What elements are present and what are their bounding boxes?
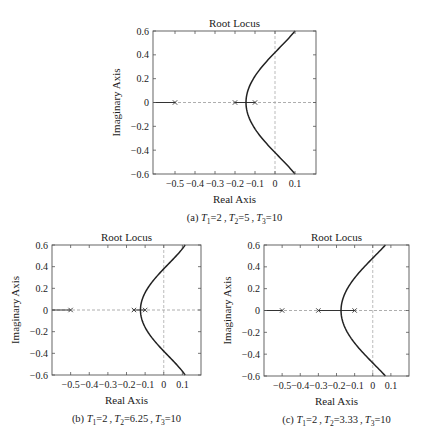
x-tick-label: 0.1 (176, 379, 189, 390)
x-tick-label: −0.2 (226, 178, 244, 189)
y-tick-label: 0.4 (248, 261, 261, 272)
x-tick-label: 0.1 (385, 380, 398, 391)
x-tick-label: −0.4 (291, 380, 309, 391)
x-tick-label: −0.1 (346, 380, 364, 391)
x-tick-label: −0.3 (309, 380, 327, 391)
x-axis-label: Real Axis (105, 394, 148, 406)
y-axis-label: Imaginary Axis (221, 276, 233, 344)
x-tick-label: 0 (370, 380, 375, 391)
x-axis-label: Real Axis (315, 395, 358, 407)
y-axis-label: Imaginary Axis (9, 276, 21, 344)
x-tick-label: 0 (273, 178, 278, 189)
locus-branch-lower (246, 103, 295, 175)
x-tick-label: −0.5 (62, 379, 80, 390)
y-tick-label: −0.4 (30, 348, 48, 359)
locus-branch-lower (341, 311, 385, 377)
root-locus-plot-b: Root Locus−0.5−0.4−0.3−0.2−0.100.10.60.4… (9, 231, 201, 427)
y-tick-label: 0.4 (36, 261, 49, 272)
x-tick-label: −0.4 (80, 379, 98, 390)
y-tick-label: 0 (144, 97, 149, 108)
y-tick-label: 0.6 (36, 240, 49, 251)
charts-canvas: Root Locus−0.5−0.4−0.3−0.2−0.100.10.60.4… (0, 0, 430, 441)
root-locus-figure: Root Locus−0.5−0.4−0.3−0.2−0.100.10.60.4… (0, 0, 430, 441)
y-tick-label: −0.6 (131, 169, 149, 180)
locus-branch-upper (246, 31, 295, 103)
x-tick-label: −0.2 (327, 380, 345, 391)
y-axis-label: Imaginary Axis (110, 68, 122, 136)
x-tick-label: −0.5 (166, 178, 184, 189)
x-tick-label: 0.1 (289, 178, 302, 189)
y-tick-label: 0 (255, 305, 260, 316)
x-tick-label: −0.3 (99, 379, 117, 390)
figure-caption: (b) T1=2 , T2=6.25 , T3=10 (72, 413, 181, 427)
x-tick-label: −0.5 (273, 380, 291, 391)
y-tick-label: 0.6 (137, 26, 150, 37)
y-tick-label: −0.2 (30, 326, 48, 337)
x-tick-label: −0.4 (186, 178, 204, 189)
y-tick-label: −0.6 (242, 371, 260, 382)
y-tick-label: −0.2 (242, 327, 260, 338)
x-tick-label: −0.3 (206, 178, 224, 189)
figure-caption: (a) T1=2 , T2=5 , T3=10 (187, 212, 283, 226)
y-tick-label: 0.2 (248, 283, 261, 294)
locus-branch-lower (140, 310, 185, 375)
x-tick-label: −0.1 (246, 178, 264, 189)
root-locus-plot-c: Root Locus−0.5−0.4−0.3−0.2−0.100.10.60.4… (221, 231, 409, 428)
chart-title: Root Locus (311, 231, 362, 243)
x-axis-label: Real Axis (213, 193, 256, 205)
x-tick-label: −0.2 (117, 379, 135, 390)
chart-title: Root Locus (101, 231, 152, 243)
x-tick-label: 0 (161, 379, 166, 390)
y-tick-label: 0.4 (137, 49, 150, 60)
chart-title: Root Locus (209, 17, 260, 29)
y-tick-label: −0.2 (131, 121, 149, 132)
y-tick-label: 0.2 (36, 283, 49, 294)
locus-branch-upper (140, 245, 185, 310)
y-tick-label: −0.6 (30, 370, 48, 381)
y-tick-label: 0.6 (248, 240, 261, 251)
y-tick-label: −0.4 (242, 349, 260, 360)
y-tick-label: 0 (43, 305, 48, 316)
y-tick-label: 0.2 (137, 73, 150, 84)
figure-caption: (c) T1=2 , T2=3.33 , T3=10 (282, 414, 391, 428)
x-tick-label: −0.1 (136, 379, 154, 390)
root-locus-plot-a: Root Locus−0.5−0.4−0.3−0.2−0.100.10.60.4… (110, 17, 316, 226)
locus-branch-upper (341, 245, 385, 311)
y-tick-label: −0.4 (131, 145, 149, 156)
